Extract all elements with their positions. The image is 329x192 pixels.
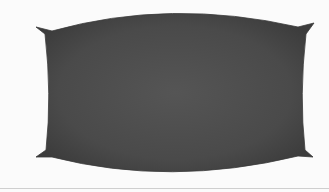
pillow-shape <box>0 0 329 192</box>
bottom-divider <box>0 188 329 189</box>
photo-stage <box>0 0 329 192</box>
